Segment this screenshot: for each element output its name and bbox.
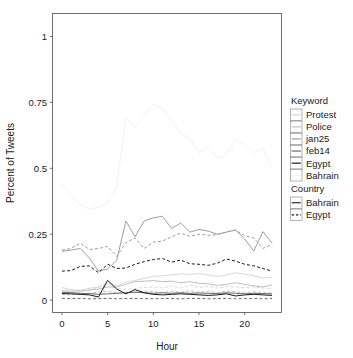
y-tick-label: 0.5 bbox=[34, 163, 47, 174]
y-tick-label: 0.25 bbox=[29, 229, 48, 240]
legend-keyword-title: Keyword bbox=[291, 95, 328, 106]
y-tick-label: 0.75 bbox=[29, 97, 48, 108]
legend-country-label[interactable]: Bahrain bbox=[306, 197, 339, 208]
x-tick-label: 0 bbox=[59, 318, 64, 329]
x-tick-label: 20 bbox=[239, 318, 250, 329]
x-tick-label: 5 bbox=[105, 318, 110, 329]
legend-country-title: Country bbox=[291, 183, 325, 194]
legend-keyword-label[interactable]: Egypt bbox=[306, 158, 331, 169]
x-tick-label: 10 bbox=[148, 318, 159, 329]
legend-keyword-label[interactable]: Bahrain bbox=[306, 170, 339, 181]
legend-keyword-label[interactable]: feb14 bbox=[306, 145, 330, 156]
line-chart: 00.250.50.751 05101520 Percent of Tweets… bbox=[0, 0, 353, 358]
x-tick-label: 15 bbox=[194, 318, 205, 329]
legend-keyword-label[interactable]: jan25 bbox=[305, 133, 329, 144]
y-axis-title: Percent of Tweets bbox=[5, 123, 16, 203]
x-axis-title: Hour bbox=[156, 341, 178, 352]
y-tick-label: 0 bbox=[42, 295, 47, 306]
chart-figure: 00.250.50.751 05101520 Percent of Tweets… bbox=[0, 0, 353, 358]
legend-keyword-label[interactable]: Protest bbox=[306, 109, 336, 120]
legend-country-label[interactable]: Egypt bbox=[306, 209, 331, 220]
y-tick-label: 1 bbox=[42, 31, 47, 42]
legend-keyword-label[interactable]: Police bbox=[306, 121, 332, 132]
